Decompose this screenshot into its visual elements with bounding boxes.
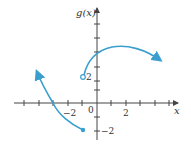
x-tick-label-2: 2 <box>123 108 129 118</box>
y-tick-label-2: 2 <box>86 72 92 82</box>
function-graph: g(x) x 0 −2 2 2 −2 <box>0 0 191 149</box>
closed-dot <box>81 128 85 132</box>
left-branch-curve <box>37 72 83 130</box>
origin-label: 0 <box>88 105 94 115</box>
y-tick-label-neg2: −2 <box>101 126 114 136</box>
right-branch-curve <box>84 46 160 75</box>
x-tick-label-neg2: −2 <box>63 108 76 118</box>
open-circle <box>81 75 86 80</box>
x-axis-label: x <box>174 105 180 116</box>
y-axis-label: g(x) <box>76 7 96 18</box>
